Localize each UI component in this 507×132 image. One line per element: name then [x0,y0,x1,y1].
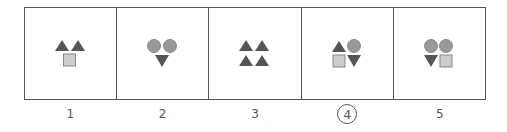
square-icon [63,54,75,66]
triangle-down-icon [424,55,438,67]
panel-4-figure [330,37,364,71]
triangle-up-icon [239,40,253,51]
triangle-up-icon [332,41,346,52]
label-1[interactable]: 1 [24,104,116,124]
triangle-down-icon [347,55,361,67]
panel-1-figure [54,37,88,71]
panel-labels: 1 2 3 4 5 [24,104,486,124]
triangle-up-icon [55,40,69,51]
square-icon [440,55,452,67]
panel-1 [25,8,117,99]
panel-3-figure [238,37,272,71]
label-5[interactable]: 5 [394,104,486,124]
triangle-up-icon [255,40,269,51]
label-3[interactable]: 3 [209,104,301,124]
panel-5-figure [422,37,456,71]
triangle-up-icon [239,55,253,66]
panel-3 [209,8,301,99]
panel-2-figure [146,37,180,71]
panel-4 [302,8,394,99]
triangle-up-icon [255,55,269,66]
triangle-up-icon [71,40,85,51]
square-icon [333,55,345,67]
circle-icon [348,39,361,52]
panel-5 [394,8,485,99]
label-2[interactable]: 2 [116,104,208,124]
figure-sequence [24,7,486,100]
circle-icon [163,39,176,52]
label-4-selected[interactable]: 4 [301,104,393,124]
circle-icon [440,39,453,52]
circle-icon [147,39,160,52]
triangle-down-icon [155,55,169,67]
circle-icon [425,39,438,52]
panel-2 [117,8,209,99]
